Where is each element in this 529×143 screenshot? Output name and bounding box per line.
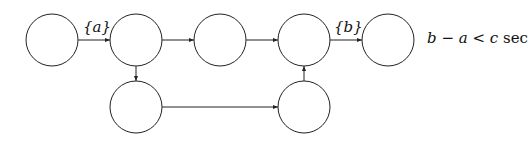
node-5 <box>362 14 414 66</box>
constraint-text: b − a < c sec <box>427 29 528 47</box>
node-3 <box>194 14 246 66</box>
node-1 <box>26 14 78 66</box>
node-7 <box>278 81 330 133</box>
node-2 <box>110 14 162 66</box>
edge-label-b: {b} <box>334 18 363 36</box>
timing-diagram: {a} {b} b − a < c sec <box>0 0 529 143</box>
node-4 <box>278 14 330 66</box>
edge-label-a: {a} <box>83 18 111 36</box>
node-6 <box>110 81 162 133</box>
